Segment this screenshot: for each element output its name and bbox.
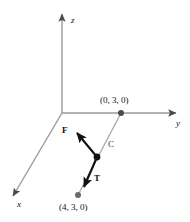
vector-junction-dot — [94, 154, 101, 161]
point-0-3-0-label: (0, 3, 0) — [100, 96, 129, 105]
vector-f-arrow — [77, 133, 97, 157]
vector-diagram — [0, 0, 190, 222]
vector-t-label: T — [94, 174, 100, 183]
y-axis-label: y — [176, 119, 180, 128]
point-4-3-0-dot — [75, 192, 81, 198]
z-axis-label: z — [71, 16, 75, 25]
point-0-3-0-dot — [118, 110, 124, 116]
point-4-3-0-label: (4, 3, 0) — [59, 203, 88, 212]
vector-f-label: F — [62, 126, 68, 135]
x-axis-label: x — [17, 200, 21, 209]
x-axis — [13, 113, 62, 196]
segment-c-label: C — [108, 140, 114, 149]
